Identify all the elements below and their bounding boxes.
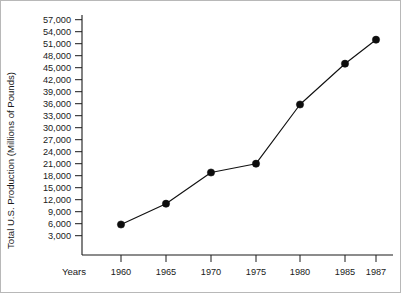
y-tick-label: 51,000 — [43, 39, 71, 49]
y-tick-label: 24,000 — [43, 147, 71, 157]
data-point-1980 — [296, 101, 303, 108]
y-tick-label: 42,000 — [43, 75, 71, 85]
y-tick-label: 36,000 — [43, 99, 71, 109]
data-point-1975 — [252, 160, 259, 167]
y-tick-label: 48,000 — [43, 51, 71, 61]
x-axis-tick-labels: 1960 1965 1970 1975 1980 1985 1987 — [111, 267, 386, 277]
x-tick-label: 1985 — [335, 267, 355, 277]
y-tick-label: 21,000 — [43, 159, 71, 169]
y-tick-label: 45,000 — [43, 63, 71, 73]
y-axis-title: Total U.S. Production (Millions of Pound… — [5, 72, 16, 249]
line-chart: Total U.S. Production (Millions of Pound… — [1, 1, 401, 293]
y-axis-title-group: Total U.S. Production (Millions of Pound… — [5, 72, 16, 249]
x-tick-label: 1980 — [290, 267, 310, 277]
x-tick-label: 1970 — [201, 267, 221, 277]
chart-figure: Total U.S. Production (Millions of Pound… — [0, 0, 401, 293]
data-point-1960 — [117, 221, 124, 228]
y-tick-label: 39,000 — [43, 87, 71, 97]
y-tick-label: 6,000 — [48, 219, 71, 229]
x-tick-label: 1987 — [366, 267, 386, 277]
x-tick-label: 1975 — [246, 267, 266, 277]
data-series-line — [121, 40, 376, 225]
y-tick-label: 57,000 — [43, 15, 71, 25]
y-axis-tick-labels: 57,000 54,000 51,000 48,000 45,000 42,00… — [43, 15, 71, 241]
y-tick-label: 30,000 — [43, 123, 71, 133]
data-point-markers — [117, 36, 379, 228]
data-point-1965 — [162, 200, 169, 207]
x-tick-label: 1965 — [156, 267, 176, 277]
y-tick-label: 27,000 — [43, 135, 71, 145]
x-axis-title: Years — [62, 266, 86, 277]
data-point-1985 — [341, 60, 348, 67]
y-tick-label: 54,000 — [43, 27, 71, 37]
x-axis-tick-marks — [121, 255, 376, 262]
x-tick-label: 1960 — [111, 267, 131, 277]
y-tick-label: 33,000 — [43, 111, 71, 121]
y-axis-tick-marks — [75, 20, 82, 236]
y-tick-label: 15,000 — [43, 183, 71, 193]
y-tick-label: 9,000 — [48, 207, 71, 217]
y-tick-label: 18,000 — [43, 171, 71, 181]
y-tick-label: 12,000 — [43, 195, 71, 205]
y-tick-label: 3,000 — [48, 231, 71, 241]
data-point-1970 — [207, 169, 214, 176]
data-point-1987 — [372, 36, 379, 43]
